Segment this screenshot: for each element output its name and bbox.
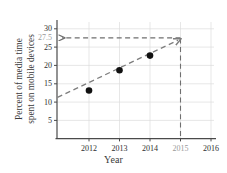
y-axis-title-line-2: spent on mobile devices — [25, 34, 37, 124]
x-tick-label-2013: 2013 — [105, 144, 135, 153]
data-point — [86, 87, 93, 94]
y-axis-title-line-1: Percent of media time — [14, 34, 26, 124]
x-tick-label-2016: 2016 — [196, 144, 226, 153]
x-tick-label-2014: 2014 — [135, 144, 165, 153]
x-axis-title: Year — [0, 155, 227, 166]
y-axis-title: Percent of media time spent on mobile de… — [12, 18, 38, 140]
predicted-year-label: 2015 — [166, 144, 196, 153]
x-tick-label-2012: 2012 — [74, 144, 104, 153]
chart-figure: 30 27.5 25 20 15 10 5 2012 2013 2014 201… — [0, 0, 227, 173]
data-point — [116, 67, 123, 74]
data-point — [147, 52, 154, 59]
